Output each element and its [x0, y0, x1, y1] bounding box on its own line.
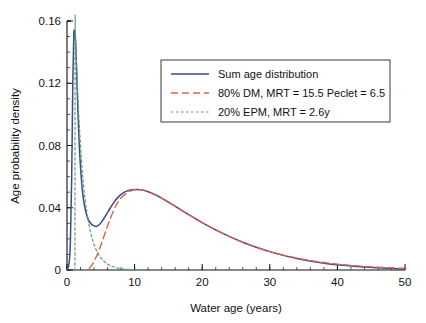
y-tick-label: 0.16 — [39, 15, 61, 27]
chart-plot-area: 0102030405000.040.080.120.16 Sum age dis… — [0, 0, 426, 323]
series-line-epm — [75, 15, 141, 270]
chart-figure: 0102030405000.040.080.120.16 Sum age dis… — [0, 0, 426, 323]
axis-lines — [67, 21, 405, 270]
axis-tick-labels: 0102030405000.040.080.120.16 — [39, 15, 412, 288]
x-tick-label: 0 — [64, 276, 70, 288]
x-tick-label: 20 — [196, 276, 209, 288]
y-tick-label: 0.08 — [39, 140, 61, 152]
x-tick-label: 50 — [399, 276, 412, 288]
x-tick-label: 30 — [263, 276, 276, 288]
legend-label-dm: 80% DM, MRT = 15.5 Peclet = 6.5 — [218, 87, 385, 99]
y-tick-label: 0.04 — [39, 202, 62, 214]
y-axis-title: Age probability density — [9, 88, 21, 204]
x-tick-label: 10 — [128, 276, 141, 288]
legend-label-epm: 20% EPM, MRT = 2.6y — [218, 106, 330, 118]
y-tick-label: 0.12 — [39, 77, 61, 89]
x-axis-title: Water age (years) — [190, 302, 282, 314]
chart-series-group — [67, 15, 405, 270]
chart-legend: Sum age distribution80% DM, MRT = 15.5 P… — [161, 60, 390, 122]
axis-minor-ticks — [67, 21, 405, 270]
series-line-dm — [89, 189, 405, 268]
axis-major-ticks — [67, 21, 405, 270]
x-tick-label: 40 — [331, 276, 344, 288]
y-tick-label: 0 — [55, 264, 61, 276]
legend-label-sum: Sum age distribution — [218, 68, 318, 80]
